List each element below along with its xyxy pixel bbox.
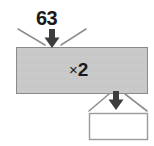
output-answer-box[interactable] — [90, 114, 148, 140]
input-funnel-left-line — [18, 29, 45, 45]
input-down-arrow-icon — [45, 29, 60, 48]
function-machine-diagram: 63 ×2 — [0, 0, 154, 146]
output-funnel-right-line — [125, 94, 147, 111]
input-value-label: 63 — [36, 8, 57, 28]
input-funnel-right-line — [61, 29, 86, 45]
machine-operand-value: 2 — [78, 59, 89, 80]
machine-operation-label: ×2 — [69, 60, 88, 79]
output-funnel-left-line — [89, 94, 109, 111]
multiplication-sign-icon: × — [69, 61, 78, 78]
